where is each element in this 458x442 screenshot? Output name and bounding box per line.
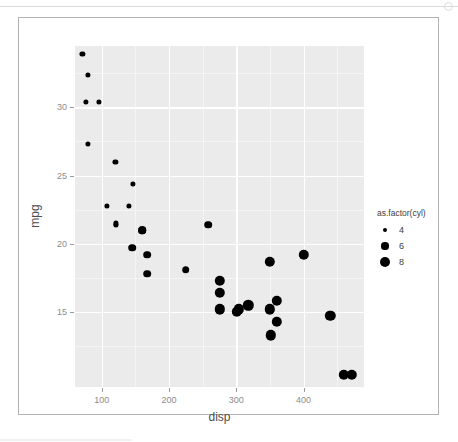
gridline-horizontal [75,73,364,74]
data-point [243,300,253,310]
gridline-vertical [203,46,204,387]
circle-icon[interactable] [444,2,453,11]
data-point [232,307,242,317]
top-divider [0,6,458,7]
data-point [113,159,118,164]
data-point [83,99,88,104]
legend-items: 468 [377,222,439,270]
gridline-vertical [102,46,103,387]
y-tick-mark [70,312,74,313]
y-axis-title: mpg [28,204,42,227]
y-tick-label: 15 [43,307,67,317]
data-point [298,249,308,259]
gridline-horizontal [75,141,364,142]
gridline-vertical [337,46,338,387]
data-point [128,244,136,252]
x-tick-label: 300 [229,395,244,405]
legend-label: 4 [399,225,404,235]
gridline-horizontal [75,346,364,347]
gridline-horizontal [75,244,364,245]
gridline-vertical [135,46,136,387]
data-point [265,330,275,340]
data-point [85,72,90,77]
gridline-horizontal [75,176,364,177]
legend-dot-icon [381,242,388,249]
y-tick-mark [70,176,74,177]
data-point [182,266,190,274]
x-tick-label: 400 [296,395,311,405]
plot-device-frame: 15202530 100200300400 disp mpg as.factor… [18,17,439,415]
legend-key [377,242,393,249]
gridline-horizontal [75,210,364,211]
screenshot-root: 15202530 100200300400 disp mpg as.factor… [0,0,458,442]
data-point [138,226,146,234]
x-tick-label: 100 [94,395,109,405]
data-point [80,52,85,57]
gridline-vertical [169,46,170,387]
legend-key [377,257,393,268]
data-point [271,316,281,326]
legend-title: as.factor(cyl) [377,208,439,218]
data-point [96,99,101,104]
y-tick-mark [70,107,74,108]
x-tick-mark [169,388,170,392]
data-point [127,203,132,208]
data-point [204,221,212,229]
data-point [325,311,335,321]
data-point [215,288,225,298]
legend-item: 6 [377,238,439,254]
data-point [265,256,275,266]
x-tick-label: 200 [162,395,177,405]
y-tick-label: 20 [43,239,67,249]
bottom-edge-artifact [0,439,132,441]
legend-item: 8 [377,254,439,270]
legend: as.factor(cyl) 468 [377,208,439,270]
data-point [144,251,152,259]
data-point [105,203,110,208]
x-tick-mark [304,388,305,392]
x-tick-mark [236,388,237,392]
y-tick-mark [70,244,74,245]
legend-item: 4 [377,222,439,238]
data-point [215,275,225,285]
legend-dot-icon [380,257,391,268]
gridline-horizontal [75,107,364,108]
y-tick-label: 30 [43,102,67,112]
legend-label: 6 [399,241,404,251]
legend-label: 8 [399,257,404,267]
x-axis-title: disp [75,410,364,424]
y-tick-label: 25 [43,171,67,181]
plot-panel [75,46,364,387]
x-tick-mark [102,388,103,392]
legend-dot-icon [383,228,388,233]
data-point [144,270,152,278]
data-point [85,142,90,147]
gridline-vertical [236,46,237,387]
gridline-vertical [304,46,305,387]
legend-key [377,228,393,233]
